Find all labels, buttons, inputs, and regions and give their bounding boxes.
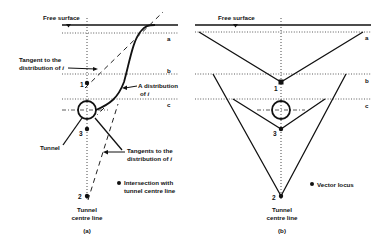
free-surface-label-b: Free surface bbox=[218, 14, 255, 21]
point-1-a bbox=[85, 81, 89, 85]
panel-b: Free surface a b c 1 3 2 Vector locus Tu… bbox=[195, 14, 371, 234]
centre-line-label1-a: Tunnel bbox=[77, 206, 97, 213]
tangents-pointer bbox=[95, 118, 122, 150]
centre-line-label1-b: Tunnel bbox=[272, 206, 292, 213]
tangents-label-line1: Tangents to the bbox=[127, 147, 173, 154]
level-b-label-b: b bbox=[365, 77, 369, 84]
point-3-label-a: 3 bbox=[79, 130, 83, 137]
caption-b: (b) bbox=[278, 227, 286, 234]
level-a-label-b: a bbox=[365, 34, 369, 41]
caption-a: (a) bbox=[83, 227, 91, 234]
tangent-arrow bbox=[68, 68, 96, 69]
distribution-curve bbox=[96, 25, 155, 110]
point-1-label-a: 1 bbox=[80, 81, 84, 88]
point-3-a bbox=[85, 127, 89, 131]
tangents-arrowhead bbox=[103, 150, 108, 155]
point-3-label-b: 3 bbox=[273, 130, 277, 137]
level-c-label: c bbox=[167, 101, 171, 108]
free-surface-label-a: Free surface bbox=[43, 14, 80, 21]
level-a-label: a bbox=[167, 35, 171, 42]
tunnel-label: Tunnel bbox=[40, 144, 60, 151]
legend-line1-a: Intersection with bbox=[124, 179, 173, 186]
point-2-a bbox=[85, 194, 89, 198]
tangent-line-1 bbox=[85, 12, 163, 88]
point-2-label-a: 2 bbox=[78, 193, 82, 200]
legend-b: Vector locus bbox=[317, 181, 354, 188]
point-1-b bbox=[279, 80, 284, 85]
vector-lines-3 bbox=[233, 99, 325, 129]
level-b-label: b bbox=[167, 67, 171, 74]
legend-marker-b bbox=[310, 182, 314, 186]
free-surface-marker-b bbox=[233, 24, 238, 28]
point-3-b bbox=[279, 127, 283, 131]
legend-marker-a bbox=[117, 181, 121, 185]
distribution-label-line1: A distribution bbox=[138, 82, 178, 89]
legend-line2-a: tunnel centre line bbox=[124, 187, 176, 194]
distribution-label-line2: of i bbox=[140, 90, 150, 97]
point-1-label-b: 1 bbox=[274, 85, 278, 92]
tunnel-settlement-diagram: Free surface a b c 1 3 2 Tangent to t bbox=[0, 0, 389, 246]
point-2-b bbox=[279, 194, 283, 198]
centre-line-label2-b: centre line bbox=[267, 214, 299, 221]
centre-line-label2-a: centre line bbox=[72, 214, 104, 221]
point-2-label-b: 2 bbox=[272, 194, 276, 201]
tangent-label-line1: Tangent to the bbox=[19, 56, 62, 63]
vector-lines-2 bbox=[213, 74, 346, 196]
level-c-label-b: c bbox=[365, 102, 369, 109]
tangents-label-line2: distribution of i bbox=[127, 155, 172, 162]
tangent-arrowhead bbox=[93, 67, 98, 71]
panel-a: Free surface a b c 1 3 2 Tangent to t bbox=[19, 12, 178, 234]
free-surface-marker-a bbox=[66, 24, 71, 28]
tangent-label-line2: distribution of i bbox=[19, 64, 64, 71]
